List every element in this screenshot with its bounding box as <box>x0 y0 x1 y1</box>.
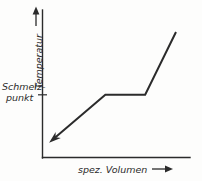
melting-point-label-line2: punkt <box>2 93 40 104</box>
melting-point-diagram: Temperatur Schmelz- punkt spez. Volumen <box>0 0 202 181</box>
arrow-right-icon <box>152 164 174 174</box>
melting-point-label-line1: Schmelz- <box>2 82 40 93</box>
melting-point-label: Schmelz- punkt <box>2 82 40 103</box>
x-axis-label-group: spez. Volumen <box>78 162 174 176</box>
x-axis-label: spez. Volumen <box>78 164 147 175</box>
state-curve <box>53 32 176 140</box>
